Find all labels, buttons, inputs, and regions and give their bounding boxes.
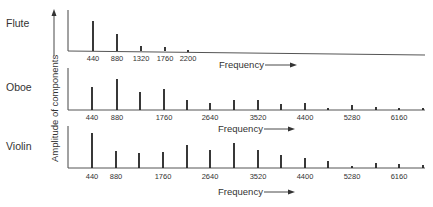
svg-text:4400: 4400 <box>297 172 314 181</box>
svg-text:440: 440 <box>86 172 99 181</box>
flute-label: Flute <box>6 17 30 29</box>
svg-text:1760: 1760 <box>156 113 173 122</box>
svg-text:440: 440 <box>86 113 99 122</box>
up-arrow-icon <box>52 9 57 16</box>
harmonic-spectra-chart: Amplitude of components Flute 440 880 13… <box>0 0 433 207</box>
svg-text:1760: 1760 <box>157 54 174 63</box>
flute-tick-labels: 440 880 1320 1760 2200 <box>87 54 197 63</box>
right-arrow-icon <box>288 190 295 195</box>
oboe-bars <box>92 79 423 110</box>
violin-tick-labels: 440 880 1760 2640 3520 4400 5280 6160 <box>86 172 408 181</box>
svg-text:2640: 2640 <box>202 113 219 122</box>
svg-text:6160: 6160 <box>391 172 408 181</box>
svg-text:4400: 4400 <box>297 113 314 122</box>
svg-text:3520: 3520 <box>250 113 267 122</box>
right-arrow-icon <box>290 63 297 68</box>
svg-text:880: 880 <box>110 172 123 181</box>
svg-text:880: 880 <box>111 54 124 63</box>
oboe-panel: Oboe 440 880 1760 2640 3520 4400 <box>6 68 425 134</box>
svg-text:5280: 5280 <box>344 113 361 122</box>
svg-text:1320: 1320 <box>133 54 150 63</box>
svg-text:880: 880 <box>111 113 124 122</box>
svg-text:1760: 1760 <box>155 172 172 181</box>
violin-x-axis-label: Frequency <box>218 186 263 197</box>
y-axis-label-group: Amplitude of components <box>49 9 60 162</box>
oboe-x-axis-label: Frequency <box>218 123 263 134</box>
violin-panel: Violin 440 880 1760 2640 3520 4400 <box>6 126 425 197</box>
flute-bars <box>93 21 188 52</box>
violin-label: Violin <box>6 140 32 152</box>
svg-text:3520: 3520 <box>250 172 267 181</box>
flute-panel: Flute 440 880 1320 1760 2200 Frequency <box>6 10 425 70</box>
oboe-tick-labels: 440 880 1760 2640 3520 4400 5280 6160 <box>86 113 408 122</box>
svg-text:440: 440 <box>87 54 100 63</box>
y-axis-label: Amplitude of components <box>49 55 60 162</box>
svg-text:6160: 6160 <box>391 113 408 122</box>
svg-text:5280: 5280 <box>344 172 361 181</box>
flute-x-axis-label: Frequency <box>219 59 264 70</box>
svg-text:2200: 2200 <box>180 54 197 63</box>
right-arrow-icon <box>288 127 295 132</box>
oboe-label: Oboe <box>6 81 32 93</box>
svg-text:2640: 2640 <box>202 172 219 181</box>
violin-bars <box>92 133 423 168</box>
